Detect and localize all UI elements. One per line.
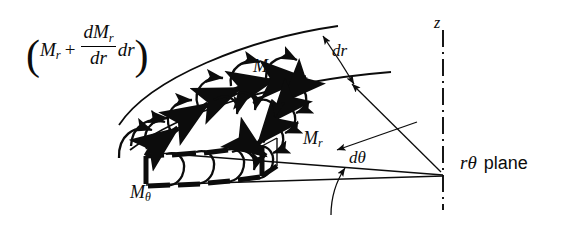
- tangential-moment-top-label: Mθ: [253, 56, 274, 79]
- close-paren: ): [135, 40, 149, 70]
- outer-radial-moment-label: (Mr+dMrdrdr): [26, 22, 149, 70]
- plane-word: plane: [484, 153, 528, 173]
- angular-increment-label: dθ: [349, 148, 366, 168]
- expr-fraction: dMrdr: [81, 22, 115, 68]
- expr-base-symbol: M: [40, 39, 56, 60]
- expr-denominator: dr: [81, 47, 115, 68]
- tangential-moment-bottom-label: Mθ: [130, 182, 151, 205]
- moment-arc-near-3: [223, 149, 244, 181]
- dtheta-arrow: [331, 168, 345, 215]
- moment-arc-near-1: [163, 153, 184, 185]
- r-theta-plane-label: rθplane: [460, 152, 528, 174]
- m-theta-bottom-symbol: M: [130, 182, 145, 202]
- open-paren: (: [26, 40, 40, 70]
- expr-base-subscript: r: [56, 48, 61, 62]
- expr-num-d: d: [83, 21, 93, 42]
- expr-multiplier: dr: [118, 39, 135, 60]
- radial-moment-label: Mr: [303, 128, 323, 151]
- expr-num-symbol: M: [93, 21, 109, 42]
- m-r-symbol: M: [303, 128, 318, 148]
- m-theta-bottom-subscript: θ: [145, 190, 151, 204]
- dr-arrow-down: [341, 63, 354, 84]
- expr-operator: +: [65, 39, 76, 60]
- expr-num-subscript: r: [109, 31, 114, 45]
- moment-arc-inner-3: [273, 124, 283, 153]
- plane-symbols: rθ: [460, 152, 477, 173]
- moment-arc-outer-3: [197, 78, 223, 106]
- moment-arrow-inner-2: [271, 100, 290, 122]
- moment-arrow-outer-4: [243, 80, 274, 87]
- figure-canvas: (Mr+dMrdrdr) Mθ Mθ Mr dr dθ z rθplane: [0, 0, 574, 230]
- m-theta-top-subscript: θ: [268, 64, 274, 78]
- expr-numerator: dMr: [81, 22, 115, 47]
- z-axis-label: z: [434, 14, 440, 32]
- moment-arc-inner-2: [285, 104, 295, 133]
- moment-arrow-inner-3: [258, 120, 278, 144]
- dtheta-leader: [331, 168, 345, 215]
- moment-arrow-outer-5: [277, 78, 306, 79]
- radial-increment-label: dr: [332, 41, 347, 61]
- m-theta-top-symbol: M: [253, 56, 268, 76]
- m-r-subscript: r: [318, 136, 323, 150]
- radial-construction-lines: [146, 152, 443, 185]
- moment-arrow-outer-2: [180, 104, 208, 122]
- moment-arrow-outer-1: [154, 128, 178, 146]
